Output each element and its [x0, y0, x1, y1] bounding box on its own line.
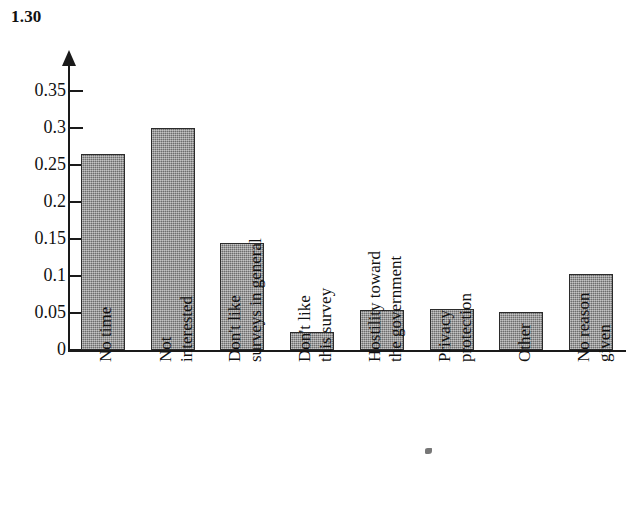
- x-axis-category-label-line: this survey: [316, 288, 336, 362]
- x-axis-category-label-line: surveys in general: [246, 238, 266, 362]
- y-axis-arrow-icon: [62, 50, 76, 66]
- x-axis-category-label-line: interested: [177, 296, 197, 362]
- bar-chart: 00.050.10.150.20.250.30.35 No timeNotint…: [0, 0, 634, 532]
- y-axis-tick: [70, 127, 83, 129]
- y-axis-line: [68, 62, 70, 351]
- x-axis-line: [68, 350, 626, 352]
- x-axis-category-label-line: protection: [456, 293, 476, 362]
- x-axis-category-label-line: No reason: [574, 293, 594, 362]
- x-axis-category-label-line: Other: [515, 323, 535, 362]
- y-axis-tick-label: 0.25: [0, 155, 66, 173]
- x-axis-category-label-line: Hostility toward: [365, 251, 385, 362]
- x-axis-category-label-line: Don't like: [225, 295, 245, 362]
- x-axis-category-label-line: the government: [386, 256, 406, 362]
- x-axis-category-label-line: Privacy: [435, 310, 455, 362]
- y-axis-tick-label: 0.3: [0, 118, 66, 136]
- y-axis-tick-label: 0.1: [0, 266, 66, 284]
- x-axis-category-label-line: Not: [156, 337, 176, 363]
- y-axis-tick-label: 0.05: [0, 303, 66, 321]
- y-axis-tick-label: 0.15: [0, 229, 66, 247]
- x-axis-category-label-line: No time: [96, 307, 116, 362]
- y-axis-tick-label: 0.35: [0, 81, 66, 99]
- scan-artifact: [425, 448, 432, 454]
- y-axis-tick-label: 0: [0, 340, 66, 358]
- y-axis-tick: [70, 90, 83, 92]
- x-axis-category-label-line: Don't like: [295, 295, 315, 362]
- y-axis-tick-label: 0.2: [0, 192, 66, 210]
- x-axis-category-label-line: given: [595, 324, 615, 362]
